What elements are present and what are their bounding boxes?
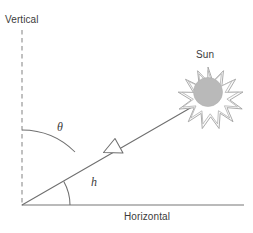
ray-direction-arrowhead bbox=[104, 139, 124, 154]
zenith-angle-arc bbox=[22, 130, 75, 152]
sun-disc bbox=[194, 78, 223, 107]
solar-angle-diagram: Vertical Horizontal Sun θ h bbox=[0, 0, 253, 233]
sun-ray-line bbox=[22, 107, 192, 205]
vertical-axis-label: Vertical bbox=[5, 14, 39, 26]
sun-graphic bbox=[178, 67, 243, 129]
altitude-angle-label: h bbox=[91, 176, 97, 188]
zenith-angle-label: θ bbox=[57, 121, 63, 133]
horizontal-axis-label: Horizontal bbox=[124, 211, 170, 223]
sun-label: Sun bbox=[196, 49, 214, 61]
altitude-angle-arc bbox=[64, 181, 70, 205]
diagram-canvas bbox=[0, 0, 253, 233]
